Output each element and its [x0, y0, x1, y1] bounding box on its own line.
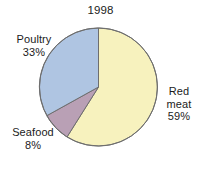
- pie-label-seafood-value: 8%: [2, 139, 64, 152]
- pie-label-poultry-value: 33%: [6, 46, 62, 59]
- pie-label-poultry: Poultry 33%: [6, 33, 62, 58]
- pie-label-red-meat: Red meat 59%: [158, 85, 200, 123]
- pie-label-red-meat-name-line1: Red: [158, 85, 200, 98]
- pie-label-seafood-name: Seafood: [2, 126, 64, 139]
- pie-label-poultry-name: Poultry: [6, 33, 62, 46]
- pie-label-seafood: Seafood 8%: [2, 126, 64, 151]
- pie-label-red-meat-value: 59%: [158, 110, 200, 123]
- pie-chart: 1998 Poultry 33% Seafood 8% Red meat 59%: [0, 0, 201, 169]
- pie-label-red-meat-name-line2: meat: [158, 98, 200, 111]
